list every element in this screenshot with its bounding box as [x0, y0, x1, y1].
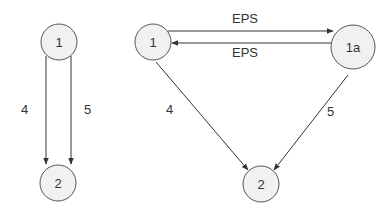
left-graph: 4 5 1 2	[21, 24, 91, 201]
edge-1a-2-5	[274, 75, 348, 170]
right-graph: EPS EPS 4 5 1 1a 2	[135, 11, 375, 202]
edge-label-eps-bottom: EPS	[232, 45, 258, 60]
edge-label-5: 5	[84, 102, 91, 117]
node-label-2: 2	[257, 177, 264, 192]
node-label-1a: 1a	[346, 40, 361, 55]
edge-label-eps-top: EPS	[232, 11, 258, 26]
edge-label-4: 4	[21, 102, 28, 117]
edge-label-5-right: 5	[327, 104, 334, 119]
node-label-1: 1	[55, 35, 62, 50]
node-label-1: 1	[149, 35, 156, 50]
edge-label-4-right: 4	[166, 102, 173, 117]
node-label-2: 2	[54, 176, 61, 191]
diagram-canvas: 4 5 1 2 EPS EPS 4 5 1 1a 2	[0, 0, 384, 210]
